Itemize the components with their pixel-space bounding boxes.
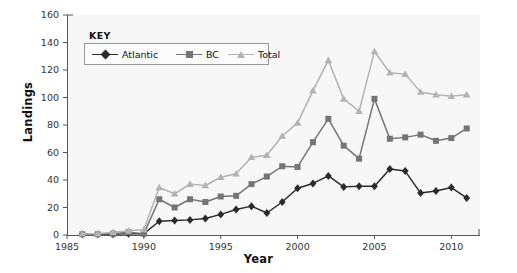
square-marker-icon xyxy=(176,49,202,59)
y-tick-label: 60 xyxy=(31,148,59,158)
legend-entry-atlantic[interactable]: Atlantic xyxy=(92,45,158,63)
x-tick-label: 1995 xyxy=(199,242,243,252)
x-tick-label: 1990 xyxy=(122,242,166,252)
y-tick-label: 120 xyxy=(31,65,59,75)
series-atlantic xyxy=(79,165,470,238)
chart-figure: 020406080100120140160 198519901995200020… xyxy=(0,0,517,273)
x-tick-label: 2010 xyxy=(429,242,473,252)
y-tick-label: 0 xyxy=(31,230,59,240)
y-tick-label: 160 xyxy=(31,10,59,20)
legend-entry-total[interactable]: Total xyxy=(228,45,280,63)
legend-label: BC xyxy=(206,49,219,60)
legend-label: Atlantic xyxy=(122,49,158,60)
y-tick-label: 20 xyxy=(31,203,59,213)
legend-title: KEY xyxy=(89,30,111,41)
legend-entry-bc[interactable]: BC xyxy=(176,45,219,63)
x-axis-title: Year xyxy=(0,252,517,266)
legend-label: Total xyxy=(258,49,280,60)
x-tick-label: 1985 xyxy=(45,242,89,252)
diamond-marker-icon xyxy=(92,49,118,59)
y-tick-label: 100 xyxy=(31,93,59,103)
series-bc xyxy=(79,96,469,237)
y-tick-label: 80 xyxy=(31,120,59,130)
y-tick-label: 40 xyxy=(31,175,59,185)
y-axis-title: Landings xyxy=(21,62,35,162)
data-series-layer xyxy=(79,48,471,239)
y-axis-ticks xyxy=(63,15,67,235)
x-tick-label: 2005 xyxy=(352,242,396,252)
x-tick-label: 2000 xyxy=(276,242,320,252)
triangle-marker-icon xyxy=(228,49,254,59)
chart-canvas xyxy=(0,0,517,273)
y-tick-label: 140 xyxy=(31,38,59,48)
